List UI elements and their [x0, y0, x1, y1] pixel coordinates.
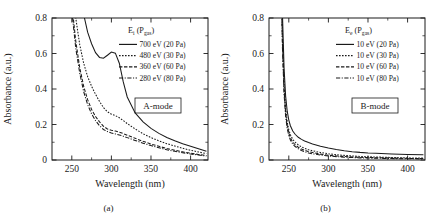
- panel-b-caption: (b): [217, 203, 434, 213]
- curves-group: [279, 0, 423, 159]
- mode-label: B-mode: [361, 101, 390, 111]
- legend-label: 480 eV (30 Pa): [140, 51, 187, 60]
- y-tick-label: 0.6: [252, 49, 264, 59]
- legend-label: 10 eV (60 Pa): [357, 62, 400, 71]
- y-tick-label: 0.8: [35, 13, 47, 23]
- y-tick-label: 0.4: [35, 84, 47, 94]
- figure-container: 25030035040000.20.40.60.8Wavelength (nm)…: [0, 0, 434, 214]
- legend-label: 10 eV (30 Pa): [357, 51, 400, 60]
- x-tick-label: 300: [321, 164, 336, 174]
- y-axis-title: Absorbance (a.u.): [219, 53, 231, 124]
- x-tick-label: 400: [183, 164, 198, 174]
- y-tick-label: 0.8: [252, 13, 264, 23]
- plot-frame: [269, 18, 425, 160]
- legend-header: Ei (Pgas): [128, 26, 154, 36]
- panel-a-caption: (a): [0, 203, 217, 213]
- legend-label: 360 eV (60 Pa): [140, 62, 187, 71]
- x-axis-title: Wavelength (nm): [312, 178, 381, 190]
- y-tick-label: 0: [259, 155, 264, 165]
- y-tick-label: 0.2: [35, 120, 47, 130]
- x-tick-label: 250: [282, 164, 297, 174]
- data-curve: [279, 0, 423, 159]
- legend-label: 700 eV (20 Pa): [140, 40, 187, 49]
- plot-a: 25030035040000.20.40.60.8Wavelength (nm)…: [0, 0, 217, 214]
- y-tick-label: 0.4: [252, 84, 264, 94]
- x-tick-label: 250: [65, 164, 80, 174]
- x-tick-label: 350: [361, 164, 376, 174]
- x-axis-title: Wavelength (nm): [95, 178, 164, 190]
- legend-label: 10 eV (20 Pa): [357, 40, 400, 49]
- y-tick-label: 0: [42, 155, 47, 165]
- panel-a: 25030035040000.20.40.60.8Wavelength (nm)…: [0, 0, 217, 214]
- panel-b: 25030035040000.20.40.60.8Wavelength (nm)…: [217, 0, 434, 214]
- mode-label: A-mode: [143, 101, 173, 111]
- data-curve: [279, 0, 423, 155]
- data-curve: [279, 0, 423, 159]
- y-tick-label: 0.2: [252, 120, 264, 130]
- legend-label: 10 eV (80 Pa): [357, 74, 400, 83]
- legend-header: Ee (Pgas): [345, 26, 372, 36]
- data-curve: [279, 0, 423, 158]
- x-tick-label: 300: [104, 164, 119, 174]
- y-axis-title: Absorbance (a.u.): [2, 53, 14, 124]
- legend-label: 280 eV (80 Pa): [140, 74, 187, 83]
- x-tick-label: 350: [144, 164, 159, 174]
- plot-b: 25030035040000.20.40.60.8Wavelength (nm)…: [217, 0, 434, 214]
- x-tick-label: 400: [400, 164, 415, 174]
- y-tick-label: 0.6: [35, 49, 47, 59]
